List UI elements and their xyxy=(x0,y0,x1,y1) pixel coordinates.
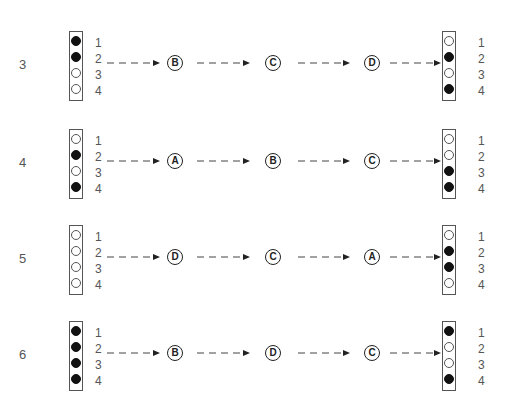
pin-number: 1 xyxy=(95,134,102,148)
dashed-arrow-icon xyxy=(197,352,250,354)
start-switch-box xyxy=(69,129,83,199)
filled-dot-icon xyxy=(71,374,81,384)
pin-number: 2 xyxy=(95,150,102,164)
pin-number: 3 xyxy=(95,68,102,82)
filled-dot-icon xyxy=(71,52,81,62)
empty-dot-icon xyxy=(71,262,81,272)
pin-number: 4 xyxy=(478,278,485,292)
filled-dot-icon xyxy=(444,262,454,272)
dashed-arrow-icon xyxy=(107,160,160,162)
pin-number: 3 xyxy=(478,68,485,82)
start-switch-box xyxy=(69,31,83,101)
pin-number: 4 xyxy=(95,374,102,388)
empty-dot-icon xyxy=(444,68,454,78)
pin-number: 2 xyxy=(95,342,102,356)
end-switch-box xyxy=(442,31,456,101)
pin-number: 1 xyxy=(478,134,485,148)
dashed-arrow-icon xyxy=(390,352,441,354)
row-label: 4 xyxy=(19,155,26,171)
pin-number: 3 xyxy=(95,262,102,276)
pin-number: 1 xyxy=(95,326,102,340)
step-node-c: C xyxy=(265,55,281,71)
end-switch-box xyxy=(442,321,456,391)
pin-number: 2 xyxy=(95,246,102,260)
empty-dot-icon xyxy=(444,230,454,240)
pin-number: 1 xyxy=(478,36,485,50)
pin-number: 1 xyxy=(95,230,102,244)
filled-dot-icon xyxy=(71,342,81,352)
step-node-d: D xyxy=(364,55,380,71)
empty-dot-icon xyxy=(71,84,81,94)
start-switch-box xyxy=(69,321,83,391)
pin-number: 3 xyxy=(95,358,102,372)
row-label: 5 xyxy=(19,251,26,267)
filled-dot-icon xyxy=(71,150,81,160)
filled-dot-icon xyxy=(444,84,454,94)
dashed-arrow-icon xyxy=(197,160,250,162)
pin-number: 3 xyxy=(95,166,102,180)
sequence-row: 412341234ABC xyxy=(0,125,513,205)
empty-dot-icon xyxy=(444,342,454,352)
row-label: 3 xyxy=(19,57,26,73)
pin-number: 1 xyxy=(478,230,485,244)
pin-number: 2 xyxy=(478,246,485,260)
empty-dot-icon xyxy=(444,358,454,368)
row-label: 6 xyxy=(19,347,26,363)
empty-dot-icon xyxy=(71,134,81,144)
step-node-d: D xyxy=(265,345,281,361)
dashed-arrow-icon xyxy=(197,62,250,64)
filled-dot-icon xyxy=(444,182,454,192)
filled-dot-icon xyxy=(71,358,81,368)
step-node-c: C xyxy=(364,153,380,169)
step-node-b: B xyxy=(167,55,183,71)
filled-dot-icon xyxy=(71,182,81,192)
pin-number: 3 xyxy=(478,262,485,276)
filled-dot-icon xyxy=(444,374,454,384)
empty-dot-icon xyxy=(71,166,81,176)
dashed-arrow-icon xyxy=(390,160,441,162)
empty-dot-icon xyxy=(444,134,454,144)
dashed-arrow-icon xyxy=(298,256,350,258)
pin-number: 3 xyxy=(478,166,485,180)
dashed-arrow-icon xyxy=(107,256,160,258)
pin-number: 1 xyxy=(95,36,102,50)
empty-dot-icon xyxy=(444,150,454,160)
step-node-b: B xyxy=(265,153,281,169)
pin-number: 4 xyxy=(478,182,485,196)
pin-number: 4 xyxy=(95,182,102,196)
pin-number: 4 xyxy=(478,374,485,388)
empty-dot-icon xyxy=(71,246,81,256)
start-switch-box xyxy=(69,225,83,295)
filled-dot-icon xyxy=(444,166,454,176)
dashed-arrow-icon xyxy=(298,160,350,162)
pin-number: 4 xyxy=(95,84,102,98)
step-node-a: A xyxy=(364,249,380,265)
empty-dot-icon xyxy=(444,36,454,46)
empty-dot-icon xyxy=(444,278,454,288)
step-node-d: D xyxy=(167,249,183,265)
pin-number: 3 xyxy=(478,358,485,372)
dashed-arrow-icon xyxy=(390,256,441,258)
pin-number: 2 xyxy=(95,52,102,66)
step-node-c: C xyxy=(364,345,380,361)
end-switch-box xyxy=(442,129,456,199)
pin-number: 4 xyxy=(478,84,485,98)
dashed-arrow-icon xyxy=(107,62,160,64)
empty-dot-icon xyxy=(71,230,81,240)
filled-dot-icon xyxy=(71,326,81,336)
filled-dot-icon xyxy=(71,36,81,46)
pin-number: 1 xyxy=(478,326,485,340)
dashed-arrow-icon xyxy=(390,62,441,64)
dashed-arrow-icon xyxy=(107,352,160,354)
sequence-row: 612341234BDC xyxy=(0,317,513,397)
empty-dot-icon xyxy=(71,278,81,288)
pin-number: 4 xyxy=(95,278,102,292)
dashed-arrow-icon xyxy=(298,62,350,64)
step-node-a: A xyxy=(167,153,183,169)
filled-dot-icon xyxy=(444,246,454,256)
dashed-arrow-icon xyxy=(298,352,350,354)
pin-number: 2 xyxy=(478,52,485,66)
sequence-row: 512341234DCA xyxy=(0,221,513,301)
filled-dot-icon xyxy=(444,52,454,62)
empty-dot-icon xyxy=(71,68,81,78)
